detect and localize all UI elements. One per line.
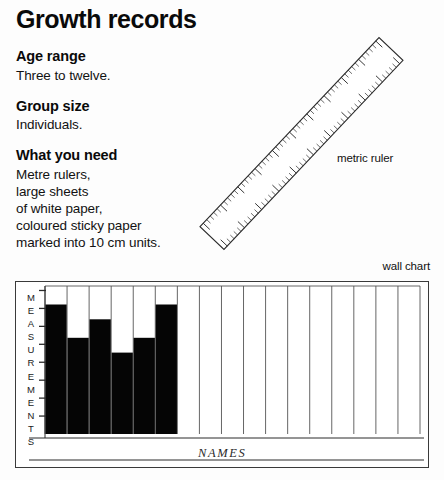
ylabel-letter: T bbox=[24, 422, 38, 435]
ruler-caption: metric ruler bbox=[337, 152, 393, 164]
bar bbox=[67, 338, 88, 434]
text-line: marked into 10 cm units. bbox=[16, 234, 236, 251]
section-body-group-size: Individuals. bbox=[16, 116, 236, 133]
text-line: Metre rulers, bbox=[16, 166, 236, 183]
section-group-size: Group size Individuals. bbox=[16, 98, 236, 134]
ylabel-letter: S bbox=[24, 330, 38, 343]
text-line: of white paper, bbox=[16, 200, 236, 217]
page-root: Growth records Age range Three to twelve… bbox=[0, 0, 444, 480]
ylabel-letter: E bbox=[24, 370, 38, 383]
ylabel-letter: M bbox=[24, 383, 38, 396]
ylabel-letter: E bbox=[24, 396, 38, 409]
wall-chart bbox=[15, 281, 429, 468]
section-body-what-you-need: Metre rulers, large sheets of white pape… bbox=[16, 166, 236, 252]
bar bbox=[90, 319, 111, 434]
bar bbox=[134, 338, 155, 434]
section-heading-what-you-need: What you need bbox=[16, 147, 236, 164]
wall-chart-caption: wall chart bbox=[382, 260, 430, 272]
ylabel-letter: N bbox=[24, 409, 38, 422]
section-heading-group-size: Group size bbox=[16, 98, 236, 115]
ylabel-letter: U bbox=[24, 343, 38, 356]
bar bbox=[112, 353, 133, 434]
text-line: Individuals. bbox=[16, 116, 236, 133]
wall-chart-svg bbox=[15, 281, 429, 468]
ylabel-letter: S bbox=[24, 435, 38, 448]
bar bbox=[156, 305, 177, 435]
instruction-text-column: Growth records Age range Three to twelve… bbox=[16, 6, 236, 265]
page-title: Growth records bbox=[16, 6, 236, 32]
section-body-age-range: Three to twelve. bbox=[16, 67, 236, 84]
text-line: coloured sticky paper bbox=[16, 217, 236, 234]
text-line: large sheets bbox=[16, 183, 236, 200]
ylabel-letter: M bbox=[24, 291, 38, 304]
section-age-range: Age range Three to twelve. bbox=[16, 48, 236, 84]
section-heading-age-range: Age range bbox=[16, 48, 236, 65]
chart-xlabel-names: NAMES bbox=[198, 446, 246, 461]
ylabel-letter: E bbox=[24, 304, 38, 317]
ylabel-letter: R bbox=[24, 356, 38, 369]
chart-ylabel-measurements: MEASUREMENTS bbox=[24, 291, 38, 448]
text-line: Three to twelve. bbox=[16, 67, 236, 84]
section-what-you-need: What you need Metre rulers, large sheets… bbox=[16, 147, 236, 251]
bar bbox=[45, 305, 66, 435]
ylabel-letter: A bbox=[24, 317, 38, 330]
